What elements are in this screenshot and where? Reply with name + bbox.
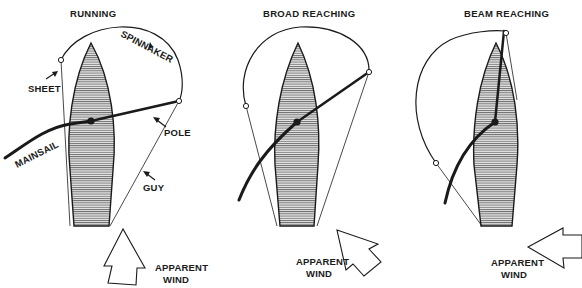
label-mainsail: MAINSAIL	[13, 138, 60, 169]
label-sheet: SHEET	[28, 83, 61, 94]
wind-label-beam-2: WIND	[501, 269, 527, 280]
wind-label-running-2: WIND	[163, 274, 189, 285]
guy-line	[317, 72, 369, 226]
label-spinnaker: SPINNAKER	[119, 28, 175, 65]
panel-running: RUNNING SPINNAKER SHEET POLE MAINSAIL GU…	[5, 8, 208, 285]
sheet-clew	[243, 103, 248, 108]
pole-tack	[176, 98, 181, 103]
panel-beam-reaching: BEAM REACHING APPARENT WIND	[416, 8, 582, 280]
mast-beam	[491, 118, 498, 125]
wind-label-broad: APPARENT	[296, 256, 349, 267]
hull-running	[69, 43, 114, 226]
title-beam-reaching: BEAM REACHING	[464, 8, 549, 19]
wind-label-running: APPARENT	[155, 262, 208, 273]
mast-broad	[293, 118, 300, 125]
pole-tack	[503, 30, 508, 35]
wind-arrow-icon	[337, 230, 381, 276]
title-running: RUNNING	[70, 8, 116, 19]
pole-pointer	[157, 120, 166, 127]
sheet-clew	[58, 57, 63, 62]
wind-arrow-icon	[104, 229, 145, 285]
title-broad-reaching: BROAD REACHING	[263, 8, 355, 19]
pole-tack	[366, 69, 371, 74]
sailing-diagram: RUNNING SPINNAKER SHEET POLE MAINSAIL GU…	[0, 0, 582, 288]
wind-label-beam: APPARENT	[491, 257, 544, 268]
panel-broad-reaching: BROAD REACHING APPARENT WIND	[239, 8, 381, 279]
label-pole: POLE	[164, 127, 191, 138]
sheet-clew	[433, 160, 438, 165]
mast-running	[87, 117, 94, 124]
sheet-line	[246, 106, 277, 226]
hull-broad-reaching	[275, 43, 319, 226]
guy-line	[110, 101, 179, 226]
wind-label-broad-2: WIND	[306, 268, 332, 279]
label-guy: GUY	[143, 182, 165, 193]
